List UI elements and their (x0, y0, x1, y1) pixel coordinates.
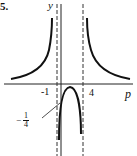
tick-label-neg1: -1 (41, 87, 49, 97)
annotation-sign: − (16, 116, 21, 125)
tick-label-4: 4 (89, 88, 94, 98)
y-intercept-annotation: − 1 4 (16, 112, 29, 129)
curve-right-branch (87, 18, 130, 79)
curve-left-branch (11, 18, 52, 79)
fraction-numerator: 1 (24, 112, 28, 120)
y-axis-label: y (48, 0, 53, 11)
graph-canvas (0, 0, 137, 156)
curve-middle-branch (59, 87, 81, 140)
fraction: 1 4 (23, 112, 29, 129)
x-axis-label: p (125, 88, 131, 100)
fraction-denominator: 4 (24, 121, 28, 129)
problem-number: 5. (0, 1, 8, 12)
